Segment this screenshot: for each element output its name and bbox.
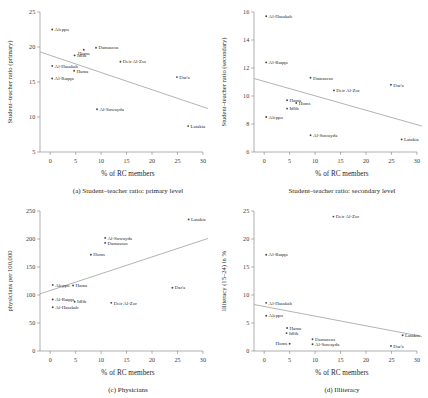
y-tick-label: 0 (246, 348, 249, 354)
scatter-plot-d: 0510152025051015202530Deir Al-ZorAl-Raqq… (214, 199, 428, 398)
y-axis-title: Student–teacher ratio (primary) (6, 40, 14, 123)
data-point: Al-Suwayda (96, 107, 125, 112)
y-tick-label: 16 (243, 9, 249, 15)
data-point: Damascus (310, 76, 334, 81)
data-point-marker (176, 76, 178, 78)
data-point: Homs (90, 252, 105, 257)
data-point: Homs (276, 341, 291, 346)
data-point-label: Hama (75, 283, 88, 288)
x-tick-label: 10 (98, 357, 104, 363)
panel-a-student-teacher-primary: 510152025051015202530AleppoDamascusHomsI… (0, 0, 214, 199)
y-tick-label: 200 (26, 236, 35, 242)
data-point: Al-Hasakah (52, 305, 79, 310)
x-tick-label: 20 (363, 158, 369, 164)
data-point: Idlib (74, 299, 87, 304)
x-tick-label: 10 (312, 357, 318, 363)
data-point-label: Aleppo (55, 27, 70, 32)
data-point-label: Al-Hasakah (55, 305, 79, 310)
data-point: Al-Hasakah (51, 64, 78, 69)
data-point: Deir Al-Zor (119, 59, 146, 64)
data-point-label: Al-Suwayda (313, 133, 338, 138)
data-point-marker (52, 299, 54, 301)
panel-caption: (d) Illiteracy (324, 386, 360, 394)
data-point: Deir Al-Zor (333, 88, 360, 93)
data-point-label: Deir Al-Zor (114, 301, 138, 306)
data-point: Al-Hasakah (265, 301, 292, 306)
data-point: Latakia (401, 137, 420, 142)
data-point-label: Aleppo (55, 283, 70, 288)
y-tick-label: 250 (26, 208, 35, 214)
data-point: Damascus (104, 241, 128, 246)
x-tick-label: 5 (288, 357, 291, 363)
data-point-marker (265, 315, 267, 317)
data-point: Deir Al-Zor (110, 301, 137, 306)
data-point-marker (289, 343, 291, 345)
y-tick-label: 15 (243, 264, 249, 270)
y-tick-label: 100 (26, 292, 35, 298)
x-axis-title: % of RC members (315, 170, 369, 178)
data-point-marker (104, 237, 106, 239)
y-tick-label: 5 (32, 149, 35, 155)
y-axis-title: illiteracy (15–24) in % (220, 251, 228, 311)
data-point-marker (52, 306, 54, 308)
data-point-label: Aleppo (269, 313, 284, 318)
x-tick-label: 30 (200, 357, 206, 363)
data-point-label: Idlib (77, 53, 87, 58)
data-point: Latakia (187, 124, 206, 129)
panel-caption: Student–teacher ratio: secondary level (288, 187, 395, 195)
data-point-marker (265, 61, 267, 63)
x-tick-label: 0 (263, 158, 266, 164)
data-point-label: Al-Hasakah (269, 301, 293, 306)
data-point: Idlib (286, 106, 299, 111)
x-tick-label: 10 (312, 158, 318, 164)
data-point-marker (310, 134, 312, 136)
data-point: Dar'a (390, 83, 405, 88)
data-point-label: Idlib (289, 106, 299, 111)
figure-container: 510152025051015202530AleppoDamascusHomsI… (0, 0, 428, 398)
data-point-label: Homs (93, 252, 105, 257)
y-tick-label: 20 (243, 236, 249, 242)
y-tick-label: 20 (29, 44, 35, 50)
y-tick-label: 14 (243, 37, 249, 43)
data-point: Al-Raqqa (52, 297, 75, 302)
scatter-plot-b: 6810121416051015202530Al-HasakahAl-Raqqa… (214, 0, 428, 199)
x-tick-label: 10 (98, 158, 104, 164)
trend-line (254, 305, 422, 337)
data-point-label: Idlib (289, 331, 299, 336)
data-point-label: Al-Hasakah (269, 14, 293, 19)
data-point: Deir Al-Zor (332, 214, 359, 219)
data-point-label: Hama (77, 69, 90, 74)
x-tick-label: 25 (174, 357, 180, 363)
data-point: Aleppo (265, 313, 283, 318)
data-point: Al-Raqqa (265, 60, 288, 65)
data-point-marker (390, 345, 392, 347)
data-point-label: Al-Raqqa (269, 60, 289, 65)
data-point-marker (73, 70, 75, 72)
x-tick-label: 30 (414, 357, 420, 363)
data-point-marker (52, 284, 54, 286)
y-axis-title: physicians per 100,000 (6, 250, 13, 312)
y-tick-label: 150 (26, 264, 35, 270)
data-point-marker (104, 242, 106, 244)
panel-b-student-teacher-secondary: 6810121416051015202530Al-HasakahAl-Raqqa… (214, 0, 428, 199)
scatter-plot-a: 510152025051015202530AleppoDamascusHomsI… (0, 0, 214, 199)
data-point: Dar'a (176, 75, 191, 80)
data-point-marker (90, 254, 92, 256)
data-point: Al-Raqqa (265, 252, 288, 257)
data-point-marker (312, 338, 314, 340)
data-point-marker (401, 138, 403, 140)
y-tick-label: 6 (246, 149, 249, 155)
data-point-marker (74, 54, 76, 56)
y-tick-label: 10 (243, 292, 249, 298)
data-point-marker (51, 78, 53, 80)
data-point: Aleppo (52, 283, 70, 288)
data-point-marker (265, 254, 267, 256)
panel-caption: (a) Student–teacher ratio: primary level (73, 187, 183, 195)
data-point-label: Dar'a (179, 75, 190, 80)
data-point: Latakia (402, 333, 421, 338)
panel-c-physicians: 050100150200250051015202530LatakiaAl-Suw… (0, 199, 214, 398)
data-point: Al-Suwayda (312, 342, 341, 347)
data-point-label: Latakia (191, 217, 206, 222)
data-point-label: Al-Raqqa (55, 297, 75, 302)
data-point-marker (72, 285, 74, 287)
